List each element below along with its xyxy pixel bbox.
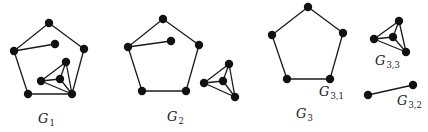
g2-node-g	[225, 60, 233, 68]
g1-edge-bf	[14, 44, 55, 51]
g3-1-node-a	[304, 3, 312, 11]
g1-node-b	[10, 47, 18, 55]
g3-3-node-a	[395, 17, 403, 25]
g3-1-node-c	[339, 29, 347, 37]
g1-label-subscript: 1	[49, 118, 54, 128]
diagram-svg: G1G2G3,1G3,3G3,2G3	[0, 0, 428, 132]
graph-diagram: G1G2G3,1G3,3G3,2G3	[0, 0, 428, 132]
g3-1-node-d	[283, 75, 291, 83]
g2-node-b	[124, 43, 132, 51]
g3-3-node-d	[402, 48, 410, 56]
g3-3-node-c	[389, 33, 397, 41]
g2-label-subscript: 2	[178, 116, 183, 126]
g3-label-main: G	[296, 106, 306, 121]
edges-layer	[14, 7, 413, 97]
g1-label-main: G	[38, 111, 48, 126]
g1-node-h	[37, 77, 45, 85]
g1-edge-ab	[14, 23, 49, 51]
g3-1-edge-bd	[272, 35, 287, 79]
g3-label: G3	[296, 106, 313, 123]
g2-edge-bd	[128, 47, 142, 91]
g3-3-label-subscript: 3,3	[386, 60, 400, 70]
g3-3-node-b	[370, 35, 378, 43]
g3-2-node-b	[409, 81, 417, 89]
g1-node-d	[24, 90, 32, 98]
g2-edge-ce	[186, 45, 199, 91]
g1-edge-ce	[72, 49, 84, 94]
g3-2-label-subscript: 3,2	[408, 100, 422, 110]
g2-label: G2	[167, 109, 184, 126]
g3-1-edge-ac	[308, 7, 343, 33]
g1-node-a	[45, 19, 53, 27]
g3-1-label: G3,1	[319, 84, 344, 101]
g1-node-c	[80, 45, 88, 53]
g2-node-d	[138, 87, 146, 95]
g2-node-f	[167, 37, 175, 45]
g2-node-c	[195, 41, 203, 49]
g2-node-j	[231, 93, 239, 101]
g1-node-g	[62, 58, 70, 66]
g2-node-a	[159, 15, 167, 23]
g3-3-label: G3,3	[375, 53, 400, 70]
g3-1-edge-ab	[272, 7, 308, 35]
g2-node-i	[219, 77, 227, 85]
g3-3-label-main: G	[375, 53, 385, 68]
g1-edge-bd	[14, 51, 28, 94]
g1-edge-ge	[66, 62, 72, 94]
g3-1-label-subscript: 3,1	[330, 91, 344, 101]
g3-label-subscript: 3	[307, 113, 312, 123]
g1-label: G1	[38, 111, 55, 128]
g2-node-h	[200, 79, 208, 87]
g3-1-label-main: G	[319, 84, 329, 99]
g2-node-e	[182, 87, 190, 95]
g1-node-f	[51, 40, 59, 48]
g1-node-i	[56, 75, 64, 83]
g2-label-main: G	[167, 109, 177, 124]
g3-1-edge-ce	[330, 33, 343, 79]
g3-1-node-b	[268, 31, 276, 39]
g3-1-node-e	[326, 75, 334, 83]
g3-2-label: G3,2	[397, 93, 422, 110]
g3-2-node-a	[364, 91, 372, 99]
g1-node-e	[68, 90, 76, 98]
g3-2-label-main: G	[397, 93, 407, 108]
